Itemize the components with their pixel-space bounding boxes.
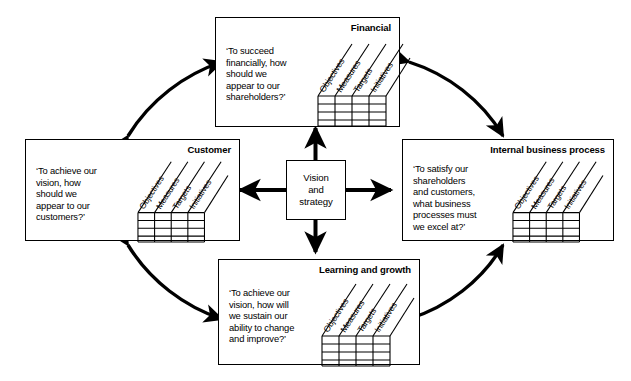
scorecard-table-financial: Objectives Measures Targets Initiatives — [314, 34, 410, 126]
perspective-box-internal-business-process[interactable]: Internal business process ‘To satisfy ou… — [402, 139, 614, 241]
perspective-box-financial[interactable]: Financial ‘To succeed financially, how s… — [215, 17, 400, 127]
perspective-question-customer: ‘To achieve our vision, how should we ap… — [36, 165, 136, 223]
perspective-box-customer[interactable]: Customer ‘To achieve our vision, how sho… — [25, 139, 240, 241]
perspective-question-internal-business-process: ‘To satisfy our shareholders and custome… — [413, 163, 517, 233]
perspective-box-learning-and-growth[interactable]: Learning and growth ‘To achieve our visi… — [218, 259, 420, 365]
vision-and-strategy-box[interactable]: Vision and strategy — [286, 160, 346, 220]
perspective-question-financial: ‘To succeed financially, how should we a… — [226, 45, 322, 103]
scorecard-table-customer: Objectives Measures Targets Initiatives — [130, 152, 232, 242]
scorecard-table-learning-and-growth: Objectives Measures Targets Initiatives — [315, 274, 417, 366]
perspective-title-financial: Financial — [351, 22, 391, 33]
scorecard-table-internal-business-process: Objectives Measures Targets Initiatives — [505, 152, 607, 242]
vision-and-strategy-label: Vision and strategy — [299, 172, 332, 208]
diagram-canvas: Financial ‘To succeed financially, how s… — [0, 0, 631, 381]
